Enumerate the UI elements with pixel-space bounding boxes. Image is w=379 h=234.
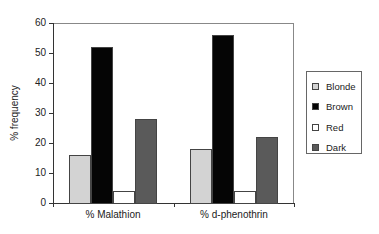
y-tick	[49, 23, 53, 24]
y-axis-title: % frequency	[9, 85, 20, 141]
x-category-label: % Malathion	[53, 209, 173, 220]
legend: BlondeBrownRedDark	[306, 71, 362, 154]
bar-red	[234, 191, 256, 204]
x-tick	[174, 203, 175, 207]
y-tick	[49, 83, 53, 84]
legend-swatch	[312, 124, 319, 131]
y-tick	[49, 173, 53, 174]
y-axis	[53, 23, 54, 204]
bar-dark	[135, 119, 157, 204]
bar-blonde	[190, 149, 212, 204]
legend-label: Blonde	[326, 81, 356, 92]
bar-brown	[91, 47, 113, 204]
legend-label: Red	[326, 122, 343, 133]
legend-item-red: Red	[312, 121, 343, 133]
y-tick-label: 60	[26, 18, 46, 28]
bar-dark	[256, 137, 278, 204]
legend-swatch	[312, 144, 319, 151]
y-tick-label: 30	[26, 108, 46, 118]
x-tick	[294, 203, 295, 207]
y-tick	[49, 113, 53, 114]
legend-item-brown: Brown	[312, 101, 353, 113]
legend-item-dark: Dark	[312, 142, 346, 154]
bar-red	[113, 191, 135, 204]
legend-item-blonde: Blonde	[312, 80, 356, 92]
legend-label: Dark	[326, 142, 346, 153]
y-tick-label: 10	[26, 168, 46, 178]
y-tick	[49, 143, 53, 144]
y-tick-label: 50	[26, 48, 46, 58]
bar-blonde	[69, 155, 91, 204]
bar-brown	[212, 35, 234, 204]
legend-label: Brown	[326, 101, 353, 112]
x-tick	[53, 203, 54, 207]
y-tick	[49, 53, 53, 54]
legend-swatch	[312, 103, 319, 110]
y-tick-label: 20	[26, 138, 46, 148]
legend-swatch	[312, 83, 319, 90]
x-category-label: % d-phenothrin	[174, 209, 294, 220]
y-tick-label: 0	[26, 198, 46, 208]
y-tick-label: 40	[26, 78, 46, 88]
